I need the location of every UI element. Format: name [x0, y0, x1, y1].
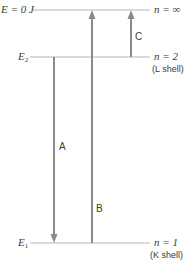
arrow-a	[51, 57, 58, 243]
label-transition-c: C	[135, 31, 142, 42]
label-k-shell: (K shell)	[150, 250, 183, 261]
label-n2: n = 2	[154, 51, 178, 62]
label-n-infinity: n = ∞	[154, 4, 180, 15]
label-e2: E2	[18, 51, 28, 66]
label-l-shell: (L shell)	[152, 64, 184, 75]
label-e1-sub: 1	[25, 242, 29, 250]
energy-diagram	[0, 0, 187, 261]
arrow-b	[89, 10, 96, 243]
label-e2-sub: 2	[25, 56, 29, 64]
label-e-zero: E = 0 J	[1, 4, 34, 15]
label-e1: E1	[18, 237, 28, 252]
label-transition-b: B	[96, 203, 103, 214]
label-n1: n = 1	[154, 237, 178, 248]
arrow-c	[128, 10, 135, 57]
label-transition-a: A	[59, 141, 66, 152]
label-e2-main: E	[18, 50, 25, 62]
label-e1-main: E	[18, 236, 25, 248]
